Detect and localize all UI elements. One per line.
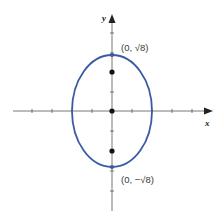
center-point [109, 108, 114, 113]
vertex-top-point [110, 53, 114, 57]
vertex-bottom-point [110, 165, 114, 169]
vertex-bottom-label: (0, −√8) [121, 174, 154, 185]
ellipse-diagram: y x (0, √8) (0, −√8) [0, 0, 221, 217]
vertex-top-label: (0, √8) [121, 42, 148, 53]
focus-top-point [109, 69, 114, 74]
y-axis-arrow-icon [109, 14, 116, 23]
x-axis-arrow-icon [204, 108, 213, 115]
focus-bottom-point [109, 148, 114, 153]
x-axis-label: x [204, 118, 210, 128]
y-axis-label: y [101, 13, 107, 23]
